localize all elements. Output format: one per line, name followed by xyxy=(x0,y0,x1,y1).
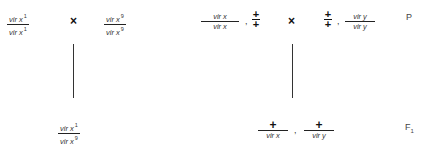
wildtype-homozygous-x-right: + + xyxy=(324,11,332,28)
plus-top: + xyxy=(325,11,331,18)
plus-top: + xyxy=(313,121,324,130)
parent-right-genotype: vir x9 vir x9 xyxy=(104,12,126,37)
f1-left-genotype: vir x1 vir x9 xyxy=(58,121,80,146)
allele-sup: 1 xyxy=(75,122,78,128)
dihybrid-right-y-genotype: vir y vir y xyxy=(345,12,375,31)
allele-sup: 9 xyxy=(121,13,124,19)
allele-sup: 9 xyxy=(75,135,78,141)
allele-bottom: vir x xyxy=(60,137,74,146)
label-subscript: 1 xyxy=(411,128,414,134)
allele-bottom: vir x xyxy=(264,131,282,140)
parent-left-genotype: vir x1 vir x1 xyxy=(7,12,29,37)
cross-symbol-left: × xyxy=(70,14,77,28)
allele-sup: 9 xyxy=(121,26,124,32)
allele-bottom: vir y xyxy=(310,131,328,140)
wildtype-homozygous-y-left: + + xyxy=(252,11,260,28)
dihybrid-left-x-genotype: vir x vir x xyxy=(201,12,239,31)
allele-top: vir x xyxy=(60,124,74,133)
descent-line-left xyxy=(73,44,74,98)
allele-top: vir x xyxy=(9,15,23,24)
allele-bottom: vir x xyxy=(106,28,120,37)
allele-top: vir x xyxy=(106,15,120,24)
separator-comma: , xyxy=(337,16,340,26)
allele-top: vir y xyxy=(351,12,369,21)
f1-right-x-genotype: + vir x xyxy=(258,121,288,140)
allele-bottom: vir y xyxy=(351,22,369,31)
plus-bottom: + xyxy=(253,21,259,28)
allele-sup: 1 xyxy=(24,13,27,19)
plus-top: + xyxy=(267,121,278,130)
f1-right-y-genotype: + vir y xyxy=(304,121,334,140)
generation-label-f1: F1 xyxy=(405,122,414,134)
separator-comma: , xyxy=(245,16,248,26)
plus-top: + xyxy=(253,11,259,18)
allele-bottom: vir x xyxy=(211,22,229,31)
allele-top: vir x xyxy=(211,12,229,21)
plus-bottom: + xyxy=(325,21,331,28)
cross-symbol-right: × xyxy=(288,14,295,28)
separator-comma: , xyxy=(294,125,297,135)
generation-label-p: P xyxy=(406,12,412,22)
allele-sup: 1 xyxy=(24,26,27,32)
genetic-cross-diagram: vir x1 vir x1 × vir x9 vir x9 vir x1 vir… xyxy=(0,0,426,157)
descent-line-right xyxy=(292,44,293,98)
allele-bottom: vir x xyxy=(9,28,23,37)
